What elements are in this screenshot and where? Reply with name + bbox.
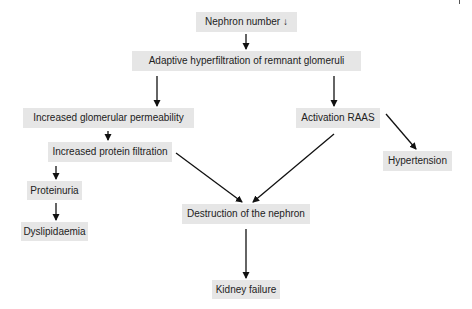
node-dyslipidaemia: Dyslipidaemia [21, 222, 88, 241]
flowchart-canvas: Nephron number ↓ Adaptive hyperfiltratio… [0, 0, 472, 309]
node-hyperfiltration: Adaptive hyperfiltration of remnant glom… [132, 51, 361, 71]
arrow-raas-to-destruction [253, 134, 334, 202]
node-destruction-of-nephron: Destruction of the nephron [182, 204, 310, 224]
node-hypertension: Hypertension [383, 151, 452, 171]
arrow-raas-to-hypertension [386, 114, 416, 149]
corner-artifact [459, 0, 460, 4]
node-activation-raas: Activation RAAS [296, 108, 380, 128]
node-proteinuria: Proteinuria [27, 181, 82, 200]
node-protein-filtration: Increased protein filtration [48, 142, 172, 162]
node-glomerular-permeability: Increased glomerular permeability [23, 108, 194, 128]
node-kidney-failure: Kidney failure [212, 280, 280, 299]
node-nephron-number: Nephron number ↓ [196, 12, 297, 32]
arrow-protein-filtration-to-destruction [176, 153, 242, 202]
